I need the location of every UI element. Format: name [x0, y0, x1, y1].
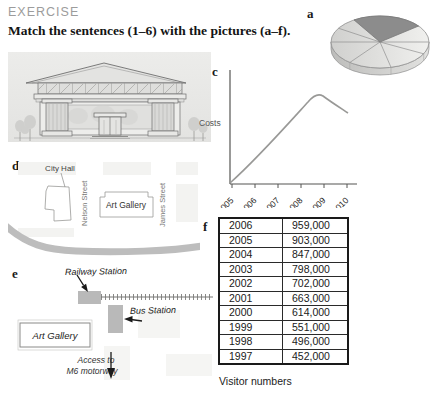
tick-2007: 2007 [261, 195, 282, 208]
tick-2009: 2009 [307, 195, 328, 208]
costs-curve [230, 95, 348, 183]
costs-line-chart-figure: 2005 2006 2007 2008 2009 2010 [196, 62, 362, 208]
railway-station-block [78, 291, 101, 304]
table-caption: Visitor numbers [219, 375, 292, 387]
bus-station-label: Bus Station [130, 305, 176, 316]
year-cell: 1999 [219, 320, 283, 335]
figure-label-a: a [307, 7, 314, 20]
table-row: 1999551,000 [219, 320, 348, 335]
value-cell: 702,000 [283, 277, 349, 292]
year-cell: 2002 [219, 277, 283, 292]
railway-station-arrow [77, 275, 88, 292]
table-row: 2000614,000 [219, 306, 348, 321]
tick-2010: 2010 [330, 195, 351, 208]
year-cell: 2004 [219, 248, 283, 263]
x-axis-ticks [232, 184, 347, 188]
year-cell: 2001 [219, 291, 283, 306]
instruction-text: Match the sentences (1–6) with the pictu… [8, 23, 290, 39]
figure-label-f: f [203, 220, 207, 233]
value-cell: 798,000 [283, 262, 349, 277]
left-pylon [42, 99, 72, 136]
visitor-numbers-table: 2006959,000 2005903,000 2004847,000 2003… [218, 217, 349, 365]
street-map-figure: City Hall Nelson Street Art Gallery Jame… [8, 158, 200, 258]
city-hall-label: City Hall [45, 164, 75, 173]
exercise-page: EXERCISE Match the sentences (1–6) with … [0, 0, 432, 397]
x-axis-labels: 2005 2006 2007 2008 2009 2010 [215, 195, 351, 208]
table-row: 2003798,000 [219, 262, 348, 277]
table-row: 1997452,000 [219, 349, 348, 364]
year-cell: 1997 [219, 349, 283, 364]
value-cell: 847,000 [283, 248, 349, 263]
access-label-line1: Access to [77, 355, 115, 365]
tick-2005: 2005 [215, 195, 236, 208]
building-drawing-figure [8, 50, 211, 150]
nelson-street-label: Nelson Street [80, 180, 89, 226]
value-cell: 496,000 [283, 335, 349, 350]
value-cell: 663,000 [283, 291, 349, 306]
art-gallery-sketch-label: Art Gallery [32, 330, 79, 341]
table-row: 2005903,000 [219, 233, 348, 248]
value-cell: 903,000 [283, 233, 349, 248]
tick-2008: 2008 [284, 195, 305, 208]
value-cell: 614,000 [283, 306, 349, 321]
value-cell: 452,000 [283, 349, 349, 364]
year-cell: 1998 [219, 335, 283, 350]
year-cell: 2003 [219, 262, 283, 277]
table-row: 2001663,000 [219, 291, 348, 306]
sketch-map-figure: Railway Station Bus Station Art Gallery … [8, 262, 215, 395]
chart-axes [230, 70, 357, 184]
value-cell: 959,000 [283, 218, 349, 233]
bus-station-block [108, 305, 123, 333]
year-cell: 2005 [219, 233, 283, 248]
year-cell: 2006 [219, 218, 283, 233]
city-hall-building [45, 186, 71, 221]
city-hall-leader-line [61, 173, 65, 187]
table-row: 2006959,000 [219, 218, 348, 233]
year-cell: 2000 [219, 306, 283, 321]
table-row: 2002702,000 [219, 277, 348, 292]
right-pylon [148, 99, 178, 136]
table-row: 1998496,000 [219, 335, 348, 350]
y-axis-label-costs: Costs [199, 118, 221, 128]
value-cell: 551,000 [283, 320, 349, 335]
table-row: 2004847,000 [219, 248, 348, 263]
exercise-heading: EXERCISE [8, 5, 79, 19]
tick-2006: 2006 [238, 195, 259, 208]
railway-station-label: Railway Station [65, 266, 127, 277]
james-street-label: James Street [158, 182, 167, 227]
art-gallery-label: Art Gallery [106, 200, 147, 210]
